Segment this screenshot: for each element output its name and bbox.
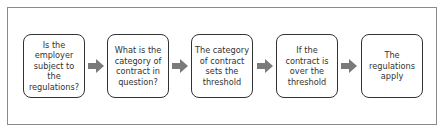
arrow-right-icon [88, 58, 104, 74]
arrow-right-icon [172, 58, 188, 74]
step-label: The category of contract sets the thresh… [194, 45, 250, 87]
step-category-threshold: The category of contract sets the thresh… [191, 34, 253, 98]
step-regulations-apply: The regulations apply [361, 34, 423, 98]
step-over-threshold: If the contract is over the threshold [276, 34, 338, 98]
step-contract-category: What is the category of contract in ques… [107, 34, 169, 98]
step-employer-subject: Is the employer subject to the regulatio… [23, 34, 85, 98]
arrow-right-icon [341, 58, 357, 74]
step-label: Is the employer subject to the regulatio… [26, 40, 82, 93]
step-label: What is the category of contract in ques… [110, 45, 166, 87]
step-label: If the contract is over the threshold [279, 45, 335, 87]
arrow-right-icon [257, 58, 273, 74]
step-label: The regulations apply [364, 50, 420, 82]
